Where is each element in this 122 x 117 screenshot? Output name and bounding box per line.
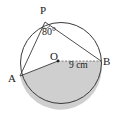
shaded-sector bbox=[20, 61, 102, 110]
angle-label: 80° bbox=[42, 26, 56, 37]
radius-label: 9 cm bbox=[69, 60, 88, 70]
label-a: A bbox=[8, 72, 16, 84]
label-o: O bbox=[50, 50, 58, 62]
circle-diagram: P 80° O 9 cm A B bbox=[0, 0, 122, 117]
label-b: B bbox=[103, 55, 110, 67]
label-p: P bbox=[40, 4, 46, 16]
